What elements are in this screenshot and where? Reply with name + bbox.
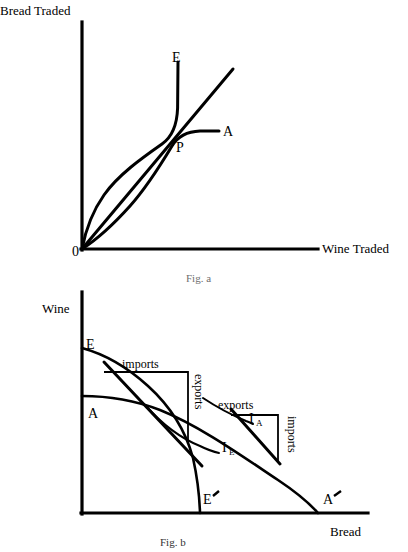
prime-mark-icon <box>334 491 341 496</box>
figure-b-group: Wine Bread E A E A imports exports expor… <box>42 292 368 548</box>
figure-a-curve-a-label: A <box>223 124 234 139</box>
figure-b-point-a-prime: A <box>323 491 341 507</box>
figure-a-curve-e-label: E <box>172 50 181 65</box>
figure-b-triangle-a-exports-label: exports <box>218 398 254 412</box>
figure-a-origin-label: 0 <box>72 244 79 259</box>
figure-b-point-e-prime: E <box>203 491 219 507</box>
figure-a-offer-curve-a <box>82 131 219 249</box>
figure-a-equilibrium-point-label: P <box>176 140 184 155</box>
figure-b-indifference-e-label: I E <box>222 440 235 457</box>
figure-b-triangle-a-imports-label: imports <box>285 416 299 453</box>
figures-svg: Bread Traded Wine Traded 0 E A P Fig. a <box>0 0 408 552</box>
figure-b-point-e-prime-label: E <box>203 492 212 507</box>
figure-a-y-axis-label: Bread Traded <box>0 3 71 18</box>
figure-b-triangle-e-exports-label: exports <box>192 374 206 410</box>
figure-a-caption: Fig. a <box>186 272 211 284</box>
figure-page: Bread Traded Wine Traded 0 E A P Fig. a <box>0 0 408 552</box>
indifference-a-subscript: A <box>256 418 263 428</box>
indifference-e-subscript: E <box>229 447 235 457</box>
figure-b-point-a-label: A <box>88 406 99 421</box>
figure-a-x-axis-label: Wine Traded <box>322 241 389 256</box>
figure-b-x-axis-label: Bread <box>330 524 362 539</box>
figure-b-point-e-label: E <box>86 337 95 352</box>
figure-b-triangle-e-imports-label: imports <box>122 357 159 371</box>
figure-b-point-a-prime-label: A <box>323 492 334 507</box>
indifference-e-letter: I <box>222 440 227 455</box>
figure-a-offer-curve-e <box>82 62 178 249</box>
indifference-a-letter: I <box>249 411 254 426</box>
figure-b-caption: Fig. b <box>160 536 186 548</box>
figure-b-y-axis-label: Wine <box>42 301 70 316</box>
figure-a-terms-of-trade-ray <box>82 69 233 249</box>
figure-a-group: Bread Traded Wine Traded 0 E A P Fig. a <box>0 3 389 284</box>
prime-mark-icon <box>213 491 219 496</box>
figure-b-indifference-a-label: I A <box>249 411 263 428</box>
